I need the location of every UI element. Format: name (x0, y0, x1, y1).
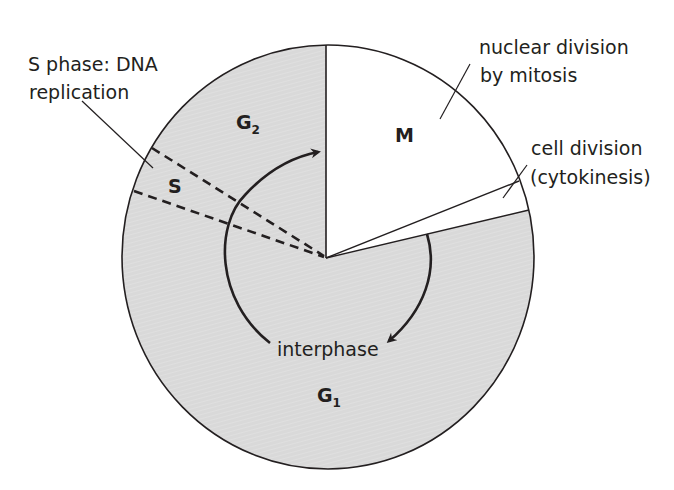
phase-label-m: M (395, 124, 414, 146)
phase-label-s: S (168, 175, 182, 197)
s-phase-annotation-line1: S phase: DNA (28, 53, 158, 75)
s-phase-annotation-line2: replication (29, 81, 129, 103)
s-phase-leader-line (82, 101, 153, 168)
mitosis-annotation-line1: nuclear division (479, 36, 629, 58)
cytokinesis-annotation-line1: cell division (531, 137, 642, 159)
cell-cycle-diagram: G2 S M G1 interphase S phase: DNA replic… (0, 0, 674, 490)
mitosis-annotation-line2: by mitosis (480, 64, 577, 86)
interphase-label: interphase (277, 338, 379, 360)
cytokinesis-annotation-line2: (cytokinesis) (530, 166, 651, 188)
